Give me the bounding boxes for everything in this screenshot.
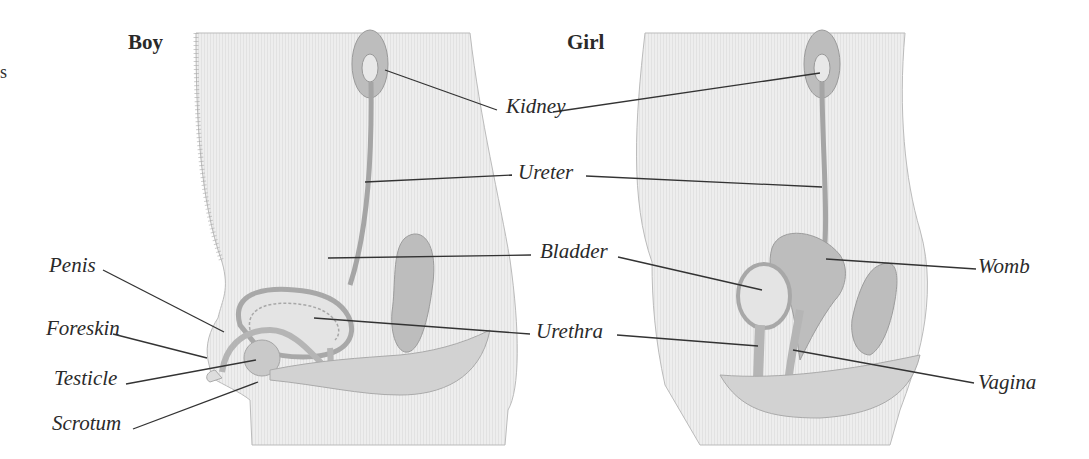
boy-body <box>196 30 517 445</box>
label-vagina: Vagina <box>978 372 1036 393</box>
label-penis: Penis <box>49 255 96 276</box>
label-foreskin: Foreskin <box>46 318 120 339</box>
panel-title-girl: Girl <box>567 30 604 55</box>
label-testicle: Testicle <box>54 368 117 389</box>
girl-body <box>636 30 927 445</box>
label-bladder: Bladder <box>540 241 608 262</box>
label-womb: Womb <box>978 256 1030 277</box>
anatomy-illustration <box>0 0 1089 459</box>
label-urethra: Urethra <box>536 321 603 342</box>
label-scrotum: Scrotum <box>52 413 121 434</box>
cropped-text-fragment: s <box>0 62 7 83</box>
label-kidney: Kidney <box>506 96 565 117</box>
label-ureter: Ureter <box>518 162 573 183</box>
panel-title-boy: Boy <box>128 30 163 55</box>
